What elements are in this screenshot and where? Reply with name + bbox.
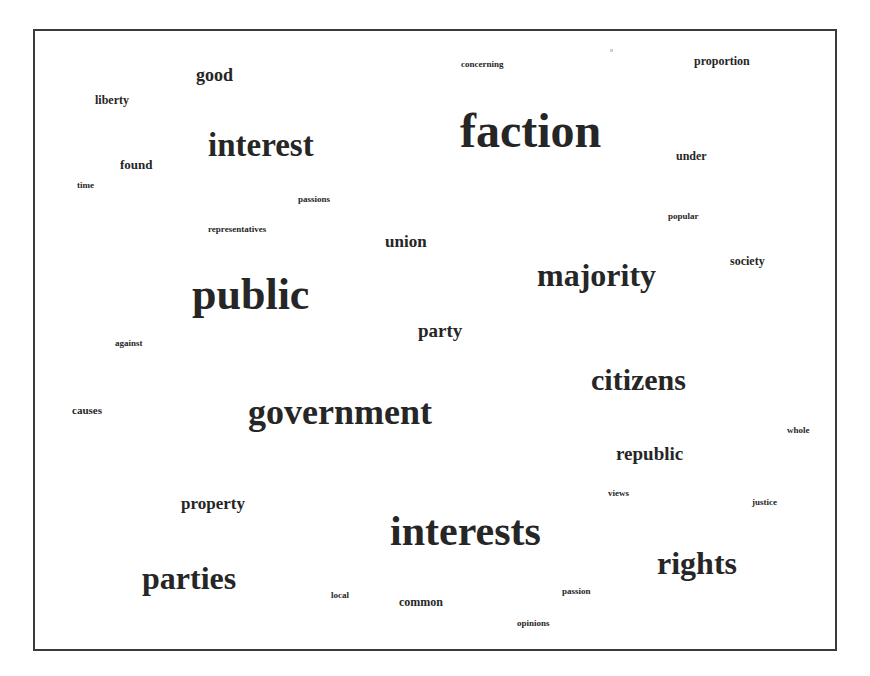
word-against: against xyxy=(115,339,143,348)
word-found: found xyxy=(120,158,153,171)
word-views: views xyxy=(608,489,629,498)
word-government: government xyxy=(248,394,432,430)
word-proportion: proportion xyxy=(694,55,750,67)
word-rights: rights xyxy=(657,547,737,579)
word-liberty: liberty xyxy=(95,94,129,106)
word-representatives: representatives xyxy=(208,225,266,234)
word-passions: passions xyxy=(298,195,330,204)
word-property: property xyxy=(181,495,245,512)
word-good: good xyxy=(196,66,233,84)
word-justice: justice xyxy=(752,498,777,507)
word-passion: passion xyxy=(562,587,591,596)
word-public: public xyxy=(192,273,309,317)
word-interests: interests xyxy=(390,510,541,552)
word-majority: majority xyxy=(537,259,656,291)
word-whole: whole xyxy=(787,426,810,435)
word-republic: republic xyxy=(616,444,683,463)
word-concerning: concerning xyxy=(461,60,504,69)
word-union: union xyxy=(385,233,427,250)
word-causes: causes xyxy=(72,405,102,416)
word-cloud: factionpublicinterestsgovernmentinterest… xyxy=(0,0,870,676)
word-under: under xyxy=(676,150,707,162)
word-society: society xyxy=(730,255,765,267)
word-interest: interest xyxy=(208,129,314,162)
word-local: local xyxy=(331,591,349,600)
word-opinions: opinions xyxy=(517,619,550,628)
word-citizens: citizens xyxy=(591,365,686,395)
word-popular: popular xyxy=(668,212,699,221)
word-party: party xyxy=(418,321,462,340)
word-common: common xyxy=(399,596,443,608)
word-time: time xyxy=(77,181,94,190)
word-parties: parties xyxy=(142,562,236,594)
word-faction: faction xyxy=(460,107,601,155)
